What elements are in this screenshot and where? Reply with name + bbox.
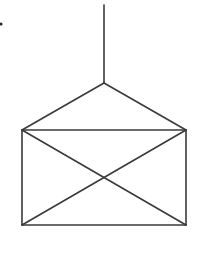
flap-right-line (104, 83, 186, 130)
diagram-lines (22, 5, 186, 225)
diagram-marks (0, 22, 3, 25)
stray-dot (0, 22, 3, 25)
flap-left-line (22, 83, 104, 130)
envelope-diagram (0, 0, 198, 263)
